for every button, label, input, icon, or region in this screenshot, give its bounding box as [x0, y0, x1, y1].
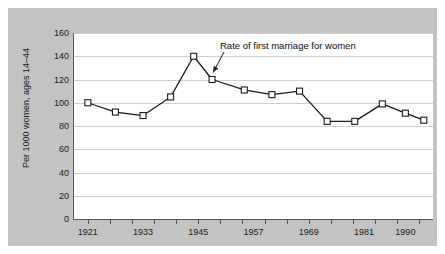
chart-figure: Per 1000 women, ages 14–44 1601401201008…: [0, 0, 445, 254]
figure-panel: Per 1000 women, ages 14–44 1601401201008…: [8, 8, 437, 246]
annotation-label: Rate of first marriage for women: [220, 40, 356, 51]
